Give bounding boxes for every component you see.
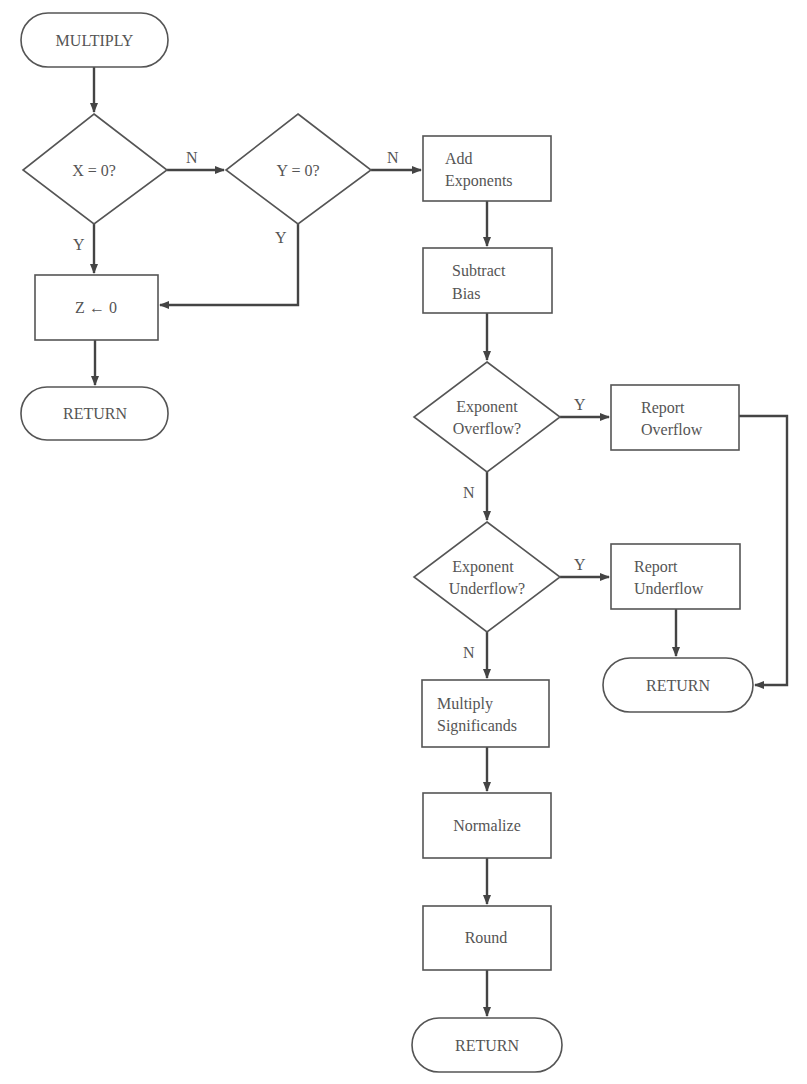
multiply-significands-process: Multiply Significands [422,680,549,747]
edge-label-y-no: N [387,149,399,166]
subtract-bias-line2: Bias [452,285,480,302]
edge-label-x-yes: Y [73,236,85,253]
report-overflow-process: Report Overflow [611,385,739,450]
y-zero-decision: Y = 0? [226,114,371,224]
return-2-label: RETURN [646,677,710,694]
exponent-underflow-line2: Underflow? [449,580,525,597]
edge-label-overflow-yes: Y [574,396,586,413]
add-exponents-process: Add Exponents [423,136,551,201]
exponent-overflow-line2: Overflow? [453,420,521,437]
return-terminal-2: RETURN [603,658,753,712]
edge-label-underflow-yes: Y [574,556,586,573]
edge-label-underflow-no: N [463,644,475,661]
return-1-label: RETURN [63,405,127,422]
exponent-underflow-decision: Exponent Underflow? [414,522,560,632]
report-underflow-line2: Underflow [634,580,704,597]
round-process: Round [423,906,551,970]
edge-label-y-yes: Y [275,229,287,246]
y-zero-label: Y = 0? [276,162,319,179]
connectors [94,67,787,1016]
normalize-process: Normalize [423,793,551,858]
exponent-overflow-decision: Exponent Overflow? [414,362,560,472]
multiply-significands-line2: Significands [437,717,517,735]
start-label: MULTIPLY [56,32,134,49]
edge-label-overflow-no: N [463,484,475,501]
exponent-underflow-line1: Exponent [452,558,514,576]
z-zero-process: Z ← 0 [35,275,158,340]
report-underflow-process: Report Underflow [611,544,740,609]
add-exponents-line2: Exponents [445,172,513,190]
z-zero-label: Z ← 0 [75,299,117,316]
report-overflow-line1: Report [641,399,685,417]
start-terminal: MULTIPLY [21,13,168,67]
subtract-bias-line1: Subtract [452,262,506,279]
normalize-label: Normalize [453,817,521,834]
exponent-overflow-line1: Exponent [456,398,518,416]
x-zero-decision: X = 0? [23,114,167,224]
return-terminal-1: RETURN [21,387,168,440]
return-terminal-3: RETURN [412,1018,562,1072]
report-underflow-line1: Report [634,558,678,576]
flowchart: N Y N Y Y N Y N MULTIPLY X = 0? Y = 0? Z… [0,0,807,1084]
return-3-label: RETURN [455,1037,519,1054]
edge-label-x-no: N [186,149,198,166]
report-overflow-line2: Overflow [641,421,703,438]
round-label: Round [465,929,508,946]
x-zero-label: X = 0? [72,162,116,179]
add-exponents-line1: Add [445,150,473,167]
subtract-bias-process: Subtract Bias [423,248,552,313]
multiply-significands-line1: Multiply [437,695,493,713]
arrow-report-overflow-to-return [739,416,787,685]
